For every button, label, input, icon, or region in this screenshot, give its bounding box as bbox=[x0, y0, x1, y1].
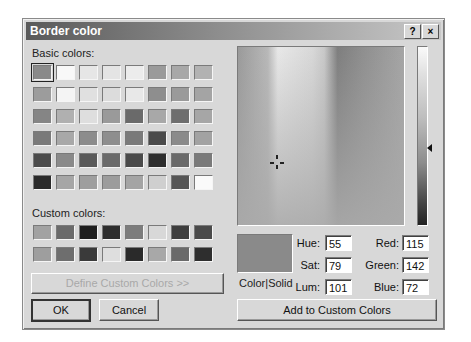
color-swatch[interactable] bbox=[79, 153, 98, 168]
color-swatch[interactable] bbox=[79, 109, 98, 124]
color-swatch[interactable] bbox=[125, 65, 144, 80]
color-swatch[interactable] bbox=[171, 153, 190, 168]
color-swatch[interactable] bbox=[125, 153, 144, 168]
color-swatch[interactable] bbox=[56, 153, 75, 168]
color-swatch[interactable] bbox=[125, 175, 144, 190]
green-label: Green: bbox=[359, 259, 399, 271]
color-swatch[interactable] bbox=[56, 65, 75, 80]
basic-colors-label: Basic colors: bbox=[32, 47, 94, 59]
color-swatch[interactable] bbox=[33, 65, 52, 80]
color-swatch[interactable] bbox=[194, 109, 213, 124]
red-label: Red: bbox=[359, 237, 399, 249]
color-swatch[interactable] bbox=[148, 225, 167, 240]
hue-label: Hue: bbox=[280, 237, 320, 249]
color-swatch[interactable] bbox=[79, 65, 98, 80]
color-swatch[interactable] bbox=[194, 153, 213, 168]
hue-input[interactable]: 55 bbox=[325, 235, 352, 251]
color-swatch[interactable] bbox=[148, 87, 167, 102]
color-swatch[interactable] bbox=[148, 175, 167, 190]
crosshair-icon-part bbox=[276, 165, 278, 169]
color-swatch[interactable] bbox=[102, 87, 121, 102]
color-swatch[interactable] bbox=[171, 225, 190, 240]
add-to-custom-colors-button[interactable]: Add to Custom Colors bbox=[237, 299, 437, 321]
color-swatch[interactable] bbox=[79, 175, 98, 190]
color-swatch[interactable] bbox=[102, 109, 121, 124]
color-swatch[interactable] bbox=[125, 131, 144, 146]
color-swatch[interactable] bbox=[148, 153, 167, 168]
color-swatch[interactable] bbox=[79, 225, 98, 240]
color-swatch[interactable] bbox=[102, 153, 121, 168]
color-swatch[interactable] bbox=[79, 87, 98, 102]
lum-label: Lum: bbox=[280, 281, 320, 293]
color-swatch[interactable] bbox=[33, 153, 52, 168]
color-swatch[interactable] bbox=[125, 87, 144, 102]
color-swatch[interactable] bbox=[194, 247, 213, 262]
ok-button[interactable]: OK bbox=[31, 299, 91, 322]
red-input[interactable]: 115 bbox=[402, 235, 429, 251]
color-swatch[interactable] bbox=[56, 109, 75, 124]
color-swatch[interactable] bbox=[33, 109, 52, 124]
lum-input[interactable]: 101 bbox=[325, 279, 352, 295]
crosshair-icon-part bbox=[270, 162, 274, 164]
crosshair-icon-part bbox=[280, 162, 284, 164]
color-swatch[interactable] bbox=[148, 247, 167, 262]
color-swatch[interactable] bbox=[171, 247, 190, 262]
color-swatch[interactable] bbox=[56, 131, 75, 146]
color-swatch[interactable] bbox=[171, 131, 190, 146]
green-input[interactable]: 142 bbox=[402, 257, 429, 273]
color-swatch[interactable] bbox=[194, 87, 213, 102]
color-swatch[interactable] bbox=[33, 225, 52, 240]
color-swatch[interactable] bbox=[194, 225, 213, 240]
color-swatch[interactable] bbox=[171, 175, 190, 190]
luminosity-arrow-icon[interactable] bbox=[427, 144, 432, 152]
color-swatch[interactable] bbox=[125, 225, 144, 240]
color-swatch[interactable] bbox=[102, 175, 121, 190]
color-swatch[interactable] bbox=[102, 247, 121, 262]
color-swatch[interactable] bbox=[56, 225, 75, 240]
color-swatch[interactable] bbox=[148, 109, 167, 124]
sat-label: Sat: bbox=[280, 259, 320, 271]
color-swatch[interactable] bbox=[33, 87, 52, 102]
color-swatch[interactable] bbox=[79, 247, 98, 262]
custom-colors-label: Custom colors: bbox=[32, 207, 105, 219]
color-dialog: Border color ? × Basic colors: Custom co… bbox=[22, 18, 445, 330]
color-swatch[interactable] bbox=[79, 131, 98, 146]
color-swatch[interactable] bbox=[102, 65, 121, 80]
help-button[interactable]: ? bbox=[404, 24, 421, 39]
cancel-button[interactable]: Cancel bbox=[99, 299, 159, 321]
color-swatch[interactable] bbox=[56, 175, 75, 190]
color-swatch[interactable] bbox=[33, 175, 52, 190]
color-swatch[interactable] bbox=[33, 247, 52, 262]
blue-input[interactable]: 72 bbox=[402, 279, 429, 295]
color-swatch[interactable] bbox=[56, 247, 75, 262]
color-swatch[interactable] bbox=[194, 175, 213, 190]
sat-input[interactable]: 79 bbox=[325, 257, 352, 273]
crosshair-icon bbox=[276, 155, 278, 159]
color-swatch[interactable] bbox=[102, 131, 121, 146]
title-bar: Border color ? × bbox=[26, 22, 441, 40]
color-swatch[interactable] bbox=[125, 247, 144, 262]
color-swatch[interactable] bbox=[148, 131, 167, 146]
blue-label: Blue: bbox=[359, 281, 399, 293]
color-swatch[interactable] bbox=[148, 65, 167, 80]
color-swatch[interactable] bbox=[194, 131, 213, 146]
color-swatch[interactable] bbox=[125, 109, 144, 124]
dialog-title: Border color bbox=[30, 24, 102, 38]
color-swatch[interactable] bbox=[33, 131, 52, 146]
luminosity-slider[interactable] bbox=[417, 46, 428, 226]
color-spectrum[interactable] bbox=[237, 46, 405, 226]
close-button[interactable]: × bbox=[422, 24, 439, 39]
color-swatch[interactable] bbox=[171, 109, 190, 124]
color-swatch[interactable] bbox=[171, 87, 190, 102]
color-swatch[interactable] bbox=[194, 65, 213, 80]
color-swatch[interactable] bbox=[56, 87, 75, 102]
define-custom-colors-button[interactable]: Define Custom Colors >> bbox=[31, 273, 224, 294]
color-swatch[interactable] bbox=[171, 65, 190, 80]
color-swatch[interactable] bbox=[102, 225, 121, 240]
